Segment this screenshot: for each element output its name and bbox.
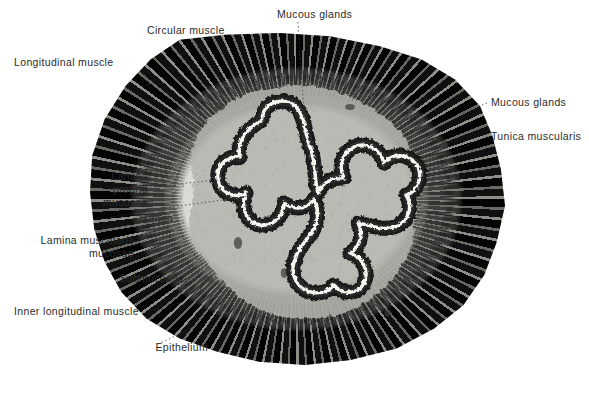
label-lumen: Lumen: [53, 212, 173, 225]
lumen-svg: [88, 33, 505, 365]
label-submucosa: Submucosa: [58, 272, 178, 285]
label-mucous-glands-top: Mucous glands: [277, 8, 352, 21]
label-tunica-muscularis: Tunica muscularis: [491, 130, 581, 143]
label-inner-longitudinal-muscle: Inner longitudinal muscle: [14, 305, 134, 318]
label-lamina-propria-mucosae: Lamina propria mucosae: [28, 170, 148, 209]
histology-figure: Longitudinal muscleCircular muscleMucous…: [0, 0, 589, 393]
label-lamina-muscularis-mucosae: Lamina muscularis mucosae: [14, 234, 134, 260]
lumen-structure: [88, 33, 505, 365]
label-epithelium: Epithelium: [88, 341, 208, 354]
label-longitudinal-muscle: Longitudinal muscle: [14, 56, 113, 69]
label-mucous-glands-right: Mucous glands: [491, 96, 566, 109]
label-circular-muscle: Circular muscle: [147, 24, 225, 37]
tissue-specimen: [88, 33, 505, 365]
